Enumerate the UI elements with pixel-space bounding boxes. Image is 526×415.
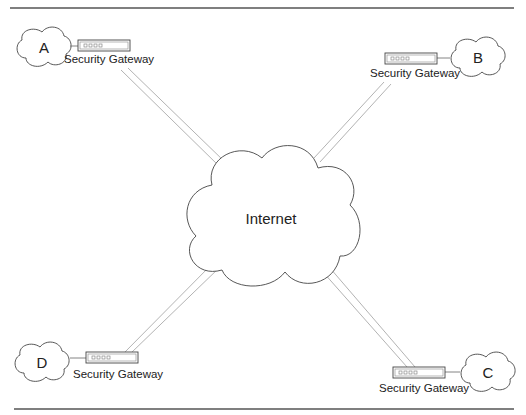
gateway-c-label: Security Gateway: [379, 383, 469, 395]
gateway-b-label: Security Gateway: [370, 68, 460, 80]
gateway-d-label: Security Gateway: [73, 369, 163, 381]
site-b-label: B: [473, 50, 483, 65]
link-d-internet: [124, 262, 221, 353]
gateway-d-icon: [86, 352, 138, 363]
site-a-label: A: [39, 40, 49, 55]
site-c-label: C: [483, 365, 494, 380]
gateway-c-icon: [393, 367, 445, 378]
link-a-internet: [121, 68, 226, 166]
link-c-internet: [323, 268, 415, 367]
gateway-b-icon: [385, 53, 437, 64]
internet-label: Internet: [246, 211, 297, 226]
link-b-internet: [314, 82, 391, 162]
gateway-a-label: Security Gateway: [64, 54, 154, 66]
site-d-label: D: [37, 355, 48, 370]
gateway-a-icon: [78, 40, 130, 51]
